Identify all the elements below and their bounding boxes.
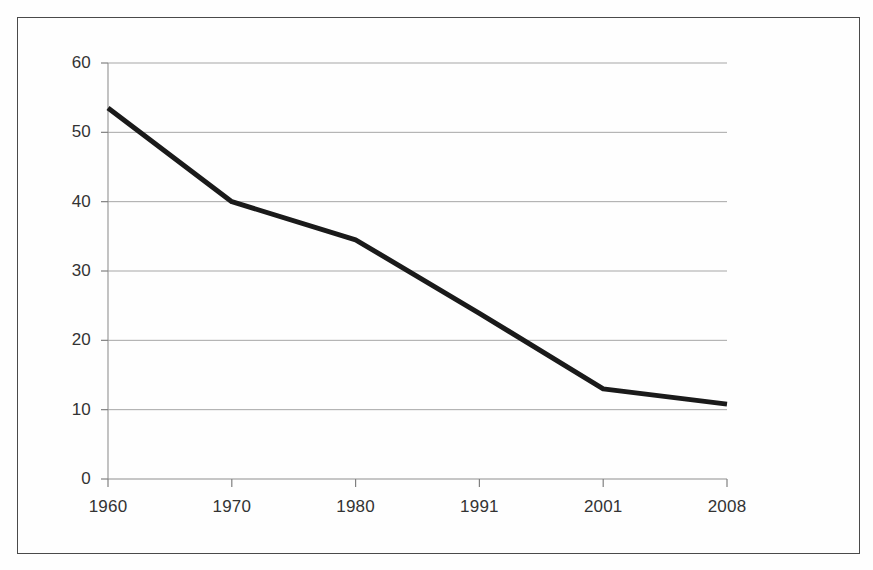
y-tick-label: 30	[36, 261, 91, 281]
x-tick-label: 2001	[584, 497, 623, 517]
x-tick-label: 1991	[460, 497, 499, 517]
y-tick-label: 0	[36, 469, 91, 489]
x-tick-label: 2008	[708, 497, 747, 517]
y-tick-label: 60	[36, 53, 91, 73]
x-tick-label: 1980	[336, 497, 375, 517]
gridlines-group	[108, 63, 727, 410]
data-series-line	[108, 108, 727, 404]
x-tick-label: 1970	[212, 497, 251, 517]
y-tick-label: 10	[36, 400, 91, 420]
chart-figure: 0102030405060 196019701980199120012008	[0, 0, 873, 570]
y-tick-marks	[101, 63, 108, 479]
y-tick-label: 20	[36, 330, 91, 350]
x-tick-label: 1960	[89, 497, 128, 517]
y-tick-label: 40	[36, 192, 91, 212]
x-tick-marks	[108, 479, 727, 487]
y-tick-label: 50	[36, 122, 91, 142]
plot-area	[0, 0, 873, 570]
